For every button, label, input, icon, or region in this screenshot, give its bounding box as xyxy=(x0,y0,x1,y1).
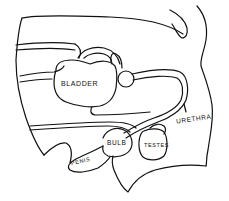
label-bladder: BLADDER xyxy=(61,80,98,87)
label-testes: TESTES xyxy=(144,143,169,149)
body-outline-notch xyxy=(44,143,71,163)
mid-vessel-bottom xyxy=(20,79,52,82)
upper-vessel-bottom xyxy=(16,49,75,51)
urethra-pointer xyxy=(184,104,186,112)
vesicle-loop-inner xyxy=(84,53,112,64)
bladder-base-connector xyxy=(91,107,150,115)
body-outline-back xyxy=(197,6,213,166)
upper-vessel-top xyxy=(16,43,75,45)
body-outline-hook xyxy=(170,10,187,38)
prostate xyxy=(118,71,134,87)
mid-vessel-top xyxy=(20,66,64,76)
label-bulb: BULB xyxy=(107,140,126,147)
anatomy-diagram xyxy=(0,0,229,201)
body-outline-left xyxy=(16,18,44,155)
body-outline-bottom xyxy=(112,156,206,192)
body-outline-top xyxy=(22,16,183,34)
